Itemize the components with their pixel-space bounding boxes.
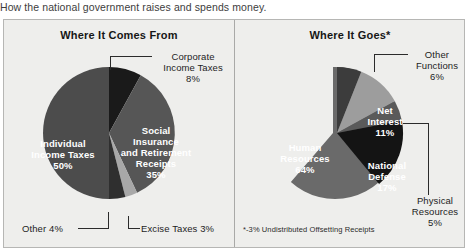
leader-line-physical-vertical: [428, 123, 429, 195]
label-excise-line1: Excise Taxes 3%: [141, 223, 227, 234]
leader-line-physical-horizontal: [403, 123, 429, 124]
label-excise-taxes: Excise Taxes 3%: [141, 223, 227, 234]
label-interest-line3: 11%: [359, 127, 411, 138]
label-corporate-line2: Income Taxes: [154, 62, 232, 73]
charts-panel: Where It Comes From Ind: [3, 19, 465, 248]
label-corporate-income-taxes: Corporate Income Taxes 8%: [154, 51, 232, 84]
label-national-defense: National Defense 17%: [354, 160, 420, 193]
label-corporate-line3: 8%: [154, 73, 232, 84]
leader-line-corporate-horizontal: [110, 56, 152, 57]
leader-line-otherfn-horizontal: [374, 54, 408, 55]
slice-individual-income-taxes: [43, 67, 109, 199]
label-other: Other 4%: [22, 223, 84, 234]
leader-line-otherfn-vertical: [374, 54, 375, 72]
label-defense-line2: Defense: [354, 171, 420, 182]
label-interest-line2: Interest: [359, 116, 411, 127]
label-net-interest: Net Interest 11%: [359, 105, 411, 138]
infographic-root: How the national government raises and s…: [0, 0, 469, 252]
chart-where-it-comes-from: Where It Comes From Ind: [4, 20, 234, 247]
footnote: *-3% Undistributed Offsetting Receipts: [243, 225, 375, 234]
label-social-insurance: Social Insurance and Retirement Receipts…: [113, 125, 199, 180]
label-physical-line2: Resources: [406, 206, 464, 217]
label-human-resources: Human Resources 64%: [267, 142, 343, 175]
label-corporate-line1: Corporate: [154, 51, 232, 62]
label-social-line3: and Retirement: [113, 147, 199, 158]
leader-line-excise-vertical: [128, 216, 129, 229]
label-individual-income-taxes: Individual Income Taxes 50%: [21, 138, 105, 171]
label-human-line1: Human: [267, 142, 343, 153]
left-chart-title: Where It Comes From: [4, 29, 234, 41]
label-human-line3: 64%: [267, 164, 343, 175]
label-human-line2: Resources: [267, 153, 343, 164]
label-physical-resources: Physical Resources 5%: [406, 195, 464, 228]
label-social-line5: 35%: [113, 169, 199, 180]
leader-line-corporate-vertical: [110, 56, 111, 70]
label-otherfn-line3: 6%: [410, 71, 464, 82]
label-individual-line3: 50%: [21, 160, 105, 171]
label-defense-line1: National: [354, 160, 420, 171]
label-social-line2: Insurance: [113, 136, 199, 147]
label-otherfn-line1: Other: [410, 49, 464, 60]
leader-line-other-vertical: [108, 212, 109, 229]
label-otherfn-line2: Functions: [410, 60, 464, 71]
leader-line-other-horizontal: [78, 228, 109, 229]
label-other-line1: Other 4%: [22, 223, 84, 234]
label-defense-line3: 17%: [354, 182, 420, 193]
page-caption: How the national government raises and s…: [0, 0, 469, 17]
label-physical-line3: 5%: [406, 217, 464, 228]
label-other-functions: Other Functions 6%: [410, 49, 464, 82]
leader-line-excise-horizontal: [128, 228, 140, 229]
label-social-line4: Receipts: [113, 158, 199, 169]
label-individual-line2: Income Taxes: [21, 149, 105, 160]
right-chart-title: Where It Goes*: [235, 29, 465, 41]
label-social-line1: Social: [113, 125, 199, 136]
label-interest-line1: Net: [359, 105, 411, 116]
label-individual-line1: Individual: [21, 138, 105, 149]
label-physical-line1: Physical: [406, 195, 464, 206]
chart-where-it-goes: Where It Goes* Human Resou: [235, 20, 465, 247]
